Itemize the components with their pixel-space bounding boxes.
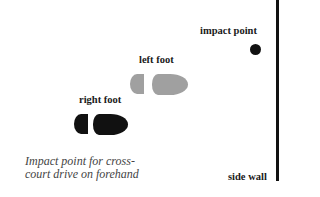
impact-point-label: impact point	[200, 25, 257, 36]
right-foot-label: right foot	[79, 94, 121, 105]
impact-point-ball-icon	[250, 44, 261, 55]
right-footprint-icon	[74, 114, 130, 135]
right-sole-icon	[93, 114, 128, 135]
left-foot-label: left foot	[139, 54, 174, 65]
left-heel-icon	[130, 74, 144, 94]
caption-line-2: court drive on forehand	[25, 168, 139, 181]
left-sole-icon	[152, 74, 188, 95]
side-wall-line	[276, 0, 279, 181]
side-wall-label: side wall	[228, 171, 267, 182]
right-heel-icon	[74, 114, 88, 134]
left-footprint-icon	[130, 74, 188, 95]
diagram-caption: Impact point for cross- court drive on f…	[25, 155, 139, 181]
